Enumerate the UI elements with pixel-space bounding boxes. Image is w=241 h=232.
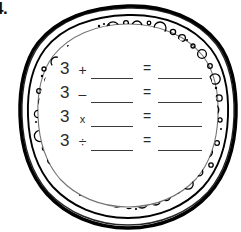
answer-blank[interactable] bbox=[158, 60, 202, 79]
operand-second-blank[interactable] bbox=[91, 60, 133, 79]
item-number-label: 4. bbox=[0, 0, 7, 18]
equals-sign: = bbox=[136, 132, 158, 149]
operand-first: 3 bbox=[60, 108, 74, 126]
operator-multiply: x bbox=[74, 108, 91, 131]
operand-second-blank[interactable] bbox=[91, 84, 133, 103]
operand-first: 3 bbox=[60, 60, 74, 78]
equation-list: 3 + = 3 – = 3 x = 3 ÷ = bbox=[60, 60, 212, 156]
operand-second-blank[interactable] bbox=[91, 132, 133, 151]
equals-sign: = bbox=[136, 60, 158, 77]
operand-second-blank[interactable] bbox=[91, 108, 133, 127]
answer-blank[interactable] bbox=[158, 132, 202, 151]
operator-plus: + bbox=[74, 60, 91, 80]
equation-row: 3 + = bbox=[60, 60, 212, 84]
equals-sign: = bbox=[136, 108, 158, 125]
operator-divide: ÷ bbox=[74, 132, 91, 152]
operand-first: 3 bbox=[60, 84, 74, 102]
worksheet-page: 4. bbox=[0, 0, 241, 232]
operator-minus: – bbox=[74, 84, 91, 104]
operand-first: 3 bbox=[60, 132, 74, 150]
equals-sign: = bbox=[136, 84, 158, 101]
equation-row: 3 – = bbox=[60, 84, 212, 108]
answer-blank[interactable] bbox=[158, 108, 202, 127]
equation-row: 3 x = bbox=[60, 108, 212, 132]
equation-row: 3 ÷ = bbox=[60, 132, 212, 156]
answer-blank[interactable] bbox=[158, 84, 202, 103]
